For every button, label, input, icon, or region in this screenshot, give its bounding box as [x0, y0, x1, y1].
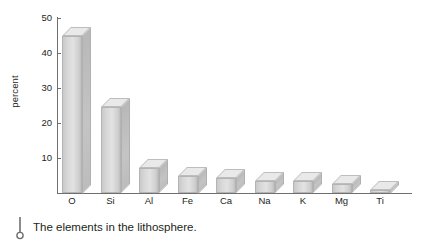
y-tick-label-10: 10: [28, 153, 52, 163]
bar-Na: [255, 181, 275, 193]
bar-K: [293, 181, 313, 193]
bar-front-Ca: [216, 178, 236, 193]
bar-Mg: [332, 184, 352, 193]
bar-side-Si: [121, 98, 130, 193]
caption-text: The elements in the lithosphere.: [33, 221, 197, 235]
bar-front-Ti: [370, 190, 390, 194]
figure: percent 1020304050 OSiAlFeCaNaKMgTi The …: [0, 0, 425, 243]
bar-front-Na: [255, 181, 275, 193]
x-label-K: K: [287, 196, 319, 206]
bar-Si: [101, 107, 121, 193]
x-label-O: O: [56, 196, 88, 206]
x-label-Ti: Ti: [364, 196, 396, 206]
y-tick-30: [57, 88, 61, 89]
bar-side-O: [82, 27, 91, 194]
y-axis-title: percent: [9, 62, 20, 122]
bar-O: [62, 36, 82, 194]
y-tick-label-40: 40: [28, 48, 52, 58]
x-label-Ca: Ca: [210, 196, 242, 206]
x-label-Si: Si: [95, 196, 127, 206]
y-tick-label-30: 30: [28, 83, 52, 93]
bar-chart: percent 1020304050 OSiAlFeCaNaKMgTi: [0, 0, 425, 200]
bar-front-O: [62, 36, 82, 194]
x-label-Fe: Fe: [172, 196, 204, 206]
bar-Ti: [370, 190, 390, 194]
y-tick-10: [57, 158, 61, 159]
pin-marker-icon: [10, 215, 30, 241]
y-tick-40: [57, 53, 61, 54]
y-tick-label-50: 50: [28, 13, 52, 23]
bar-Fe: [178, 176, 198, 194]
bar-front-Mg: [332, 184, 352, 193]
bar-Ca: [216, 178, 236, 193]
x-label-Mg: Mg: [326, 196, 358, 206]
bar-front-Al: [139, 168, 159, 193]
bar-Al: [139, 168, 159, 193]
y-axis-line: [57, 17, 58, 194]
y-tick-label-20: 20: [28, 118, 52, 128]
x-label-Na: Na: [249, 196, 281, 206]
bar-front-Fe: [178, 176, 198, 194]
x-label-Al: Al: [133, 196, 165, 206]
x-axis-line: [57, 193, 412, 194]
bar-front-Si: [101, 107, 121, 193]
y-tick-20: [57, 123, 61, 124]
y-tick-50: [57, 18, 61, 19]
bar-front-K: [293, 181, 313, 193]
caption: The elements in the lithosphere.: [0, 212, 425, 243]
